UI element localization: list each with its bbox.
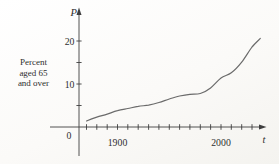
x-axis-title: t [263, 134, 267, 145]
side-caption-line2: aged 65 [19, 68, 48, 78]
y-axis-arrow-icon [77, 8, 82, 16]
data-curve [87, 38, 261, 121]
figure-percent-aged-65: Percent aged 65 and over P t 0 20 10 190… [0, 0, 279, 164]
x-axis-arrow-icon [259, 125, 267, 130]
side-caption: Percent aged 65 and over [18, 57, 49, 88]
x-tick-label-1900: 1900 [108, 137, 128, 148]
chart-canvas: Percent aged 65 and over P t 0 20 10 190… [0, 0, 279, 164]
y-axis-title: P [70, 7, 78, 18]
x-tick-label-2000: 2000 [211, 137, 231, 148]
side-caption-line1: Percent [20, 57, 47, 67]
y-tick-label-20: 20 [65, 36, 75, 47]
origin-label: 0 [67, 130, 72, 141]
y-tick-label-10: 10 [65, 79, 75, 90]
side-caption-line3: and over [18, 78, 49, 88]
